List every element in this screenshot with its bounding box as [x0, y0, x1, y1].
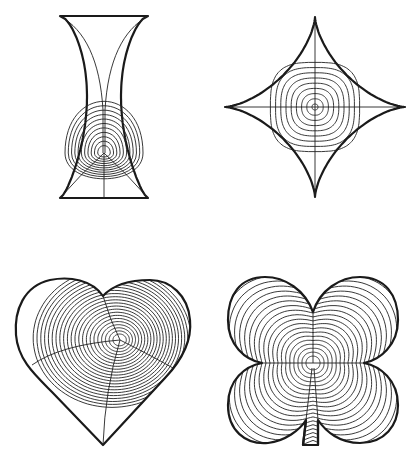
astroid-panel: [225, 17, 405, 197]
heart-contour: [90, 315, 145, 363]
ridge-line: [105, 16, 148, 153]
heart-panel: [16, 269, 191, 445]
heart-contour: [102, 325, 136, 355]
ridge-line: [104, 153, 148, 198]
ridge-line: [60, 153, 104, 198]
ridge-line: [60, 16, 103, 153]
hourglass-panel: [60, 16, 148, 198]
ridge-line: [120, 340, 173, 368]
clover-panel: [219, 271, 408, 456]
figure-canvas: [0, 0, 411, 458]
